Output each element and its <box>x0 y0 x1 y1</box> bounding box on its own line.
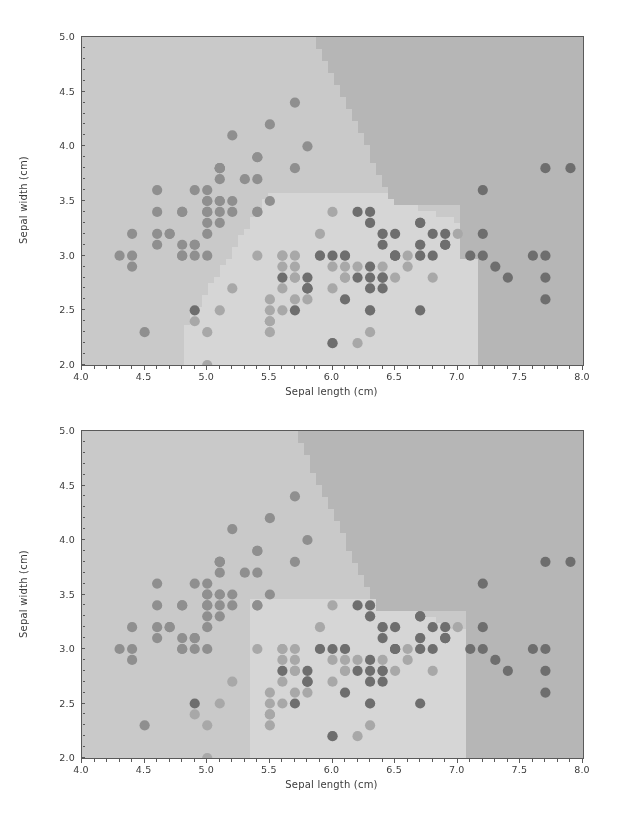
y-tick-minor <box>83 80 86 81</box>
y-tick-minor <box>83 474 86 475</box>
x-tick-minor <box>507 759 508 762</box>
x-tick-minor <box>94 759 95 762</box>
x-tick-major <box>332 366 333 370</box>
x-tick-minor <box>244 366 245 369</box>
y-axis-ticks-bottom: 2.02.53.03.54.04.55.0 <box>21 430 81 757</box>
x-tick-label: 7.0 <box>449 371 465 382</box>
x-tick-minor <box>156 366 157 369</box>
x-tick-minor <box>131 366 132 369</box>
y-tick-minor <box>83 528 86 529</box>
y-axis-title-bottom: Sepal width (cm) <box>18 550 29 638</box>
y-tick-minor <box>83 102 86 103</box>
y-tick-minor <box>83 583 86 584</box>
x-tick-minor <box>444 759 445 762</box>
y-tick-minor <box>83 735 86 736</box>
y-tick-minor <box>83 452 86 453</box>
y-tick-minor <box>83 320 86 321</box>
x-tick-minor <box>344 759 345 762</box>
x-tick-major <box>519 759 520 763</box>
x-tick-minor <box>106 366 107 369</box>
x-tick-minor <box>469 759 470 762</box>
x-tick-major <box>394 366 395 370</box>
y-tick-minor <box>83 134 86 135</box>
y-tick-minor <box>83 724 86 725</box>
x-tick-minor <box>369 759 370 762</box>
scatter-panel-top: 4.04.55.05.56.06.57.07.58.0 2.02.53.03.5… <box>0 0 617 410</box>
y-tick-major <box>81 91 85 92</box>
x-tick-major <box>582 366 583 370</box>
y-tick-minor <box>83 746 86 747</box>
y-tick-minor <box>83 561 86 562</box>
x-tick-major <box>394 759 395 763</box>
x-tick-label: 7.5 <box>512 371 528 382</box>
x-tick-label: 6.5 <box>386 764 402 775</box>
x-tick-major <box>269 366 270 370</box>
x-tick-label: 5.5 <box>261 371 277 382</box>
y-tick-minor <box>83 47 86 48</box>
y-tick-label: 4.0 <box>59 534 75 545</box>
y-axis-ticks-top: 2.02.53.03.54.04.55.0 <box>21 36 81 364</box>
x-tick-major <box>519 366 520 370</box>
y-tick-minor <box>83 113 86 114</box>
x-tick-minor <box>432 366 433 369</box>
x-tick-minor <box>119 759 120 762</box>
y-tick-minor <box>83 692 86 693</box>
x-tick-minor <box>194 366 195 369</box>
y-tick-major <box>81 255 85 256</box>
x-tick-minor <box>532 366 533 369</box>
x-tick-minor <box>407 759 408 762</box>
x-tick-major <box>582 759 583 763</box>
y-tick-minor <box>83 287 86 288</box>
x-tick-label: 8.0 <box>574 764 590 775</box>
y-tick-minor <box>83 266 86 267</box>
x-tick-minor <box>306 759 307 762</box>
y-tick-major <box>81 648 85 649</box>
x-tick-major <box>269 759 270 763</box>
x-tick-minor <box>382 366 383 369</box>
y-tick-label: 2.5 <box>59 304 75 315</box>
y-tick-label: 2.5 <box>59 697 75 708</box>
x-tick-minor <box>231 759 232 762</box>
y-tick-minor <box>83 615 86 616</box>
y-tick-major <box>81 430 85 431</box>
y-tick-label: 4.0 <box>59 140 75 151</box>
x-tick-minor <box>294 759 295 762</box>
y-tick-minor <box>83 123 86 124</box>
x-tick-minor <box>557 759 558 762</box>
y-tick-minor <box>83 222 86 223</box>
x-tick-label: 7.0 <box>449 764 465 775</box>
y-tick-minor <box>83 331 86 332</box>
y-tick-minor <box>83 156 86 157</box>
scatter-panel-bottom: 4.04.55.05.56.06.57.07.58.0 2.02.53.03.5… <box>0 400 617 815</box>
y-tick-minor <box>83 681 86 682</box>
y-tick-major <box>81 200 85 201</box>
x-tick-label: 8.0 <box>574 371 590 382</box>
x-tick-minor <box>306 366 307 369</box>
y-tick-minor <box>83 298 86 299</box>
x-tick-major <box>81 759 82 763</box>
x-tick-minor <box>319 366 320 369</box>
x-tick-minor <box>294 366 295 369</box>
x-tick-major <box>332 759 333 763</box>
x-tick-minor <box>169 759 170 762</box>
x-tick-minor <box>156 759 157 762</box>
y-tick-minor <box>83 659 86 660</box>
y-tick-minor <box>83 167 86 168</box>
x-tick-minor <box>482 759 483 762</box>
y-tick-major <box>81 594 85 595</box>
y-tick-label: 3.5 <box>59 588 75 599</box>
y-tick-minor <box>83 353 86 354</box>
x-tick-major <box>206 366 207 370</box>
x-tick-minor <box>357 759 358 762</box>
x-tick-minor <box>494 366 495 369</box>
y-tick-minor <box>83 517 86 518</box>
scatter-points-canvas-top <box>82 37 583 365</box>
x-tick-label: 4.0 <box>73 371 89 382</box>
x-tick-minor <box>219 759 220 762</box>
x-tick-label: 6.0 <box>324 371 340 382</box>
x-tick-label: 7.5 <box>512 764 528 775</box>
x-tick-minor <box>181 759 182 762</box>
x-tick-major <box>144 366 145 370</box>
y-tick-minor <box>83 572 86 573</box>
y-tick-minor <box>83 604 86 605</box>
